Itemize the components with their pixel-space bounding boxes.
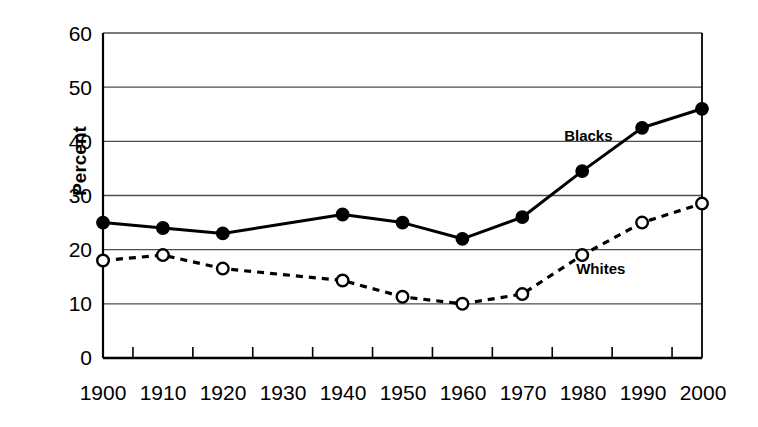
data-point-whites: [217, 263, 229, 275]
data-point-blacks: [516, 211, 528, 223]
data-point-blacks: [336, 208, 348, 220]
data-point-blacks: [636, 122, 648, 134]
data-point-whites: [576, 249, 588, 261]
data-point-blacks: [576, 165, 588, 177]
data-point-blacks: [696, 103, 708, 115]
data-point-blacks: [97, 216, 109, 228]
data-point-whites: [397, 291, 409, 303]
chart-figure: Percent 60 50 40 30 20 10 0 1900 1910 19…: [0, 0, 758, 427]
data-point-whites: [337, 275, 349, 287]
gridlines: [103, 33, 702, 358]
data-point-blacks: [456, 233, 468, 245]
data-point-blacks: [217, 227, 229, 239]
series-lines: [103, 109, 702, 304]
data-point-whites: [457, 298, 469, 310]
x-axis-tick-marks: [133, 347, 672, 358]
data-point-whites: [636, 217, 648, 229]
data-point-blacks: [396, 216, 408, 228]
data-point-whites: [517, 288, 529, 300]
data-point-blacks: [157, 222, 169, 234]
data-point-whites: [97, 255, 109, 267]
line-chart-plot: [0, 0, 758, 427]
data-point-whites: [157, 249, 169, 261]
series-points: [97, 103, 708, 310]
data-point-whites: [696, 198, 708, 210]
